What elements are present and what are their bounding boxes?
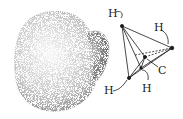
methane-diagram: H H H H C xyxy=(0,0,183,119)
atom-labels: H H H H C xyxy=(104,7,166,97)
tetrahedral-model xyxy=(113,11,174,91)
label-h-bottom-left: H xyxy=(104,84,114,97)
label-h-right: H xyxy=(154,21,164,34)
label-h-top: H xyxy=(108,7,118,20)
label-h-bottom: H xyxy=(142,82,152,95)
diagram-canvas: H H H H C xyxy=(0,0,183,119)
label-c: C xyxy=(158,64,166,77)
space-filling-model xyxy=(15,11,110,111)
